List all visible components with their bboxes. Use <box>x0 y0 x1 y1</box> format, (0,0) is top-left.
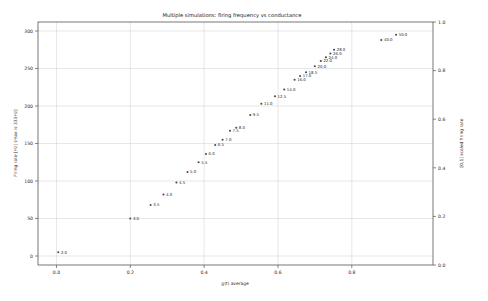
point-label: 28.0 <box>337 47 346 52</box>
point-marker <box>222 139 224 141</box>
point-marker <box>229 130 231 132</box>
y-tick-label: 50 <box>27 216 33 221</box>
y-tick-right-label: 0.0 <box>438 263 445 268</box>
point-label: 18.5 <box>309 70 318 75</box>
point-marker <box>150 204 152 206</box>
point-marker <box>274 95 276 97</box>
y-tick-label: 100 <box>24 179 33 184</box>
y-tick-label: 200 <box>24 104 33 109</box>
point-label: 9.5 <box>253 112 260 117</box>
point-marker <box>305 71 307 73</box>
point-label: 3.0 <box>133 216 140 221</box>
point-label: 5.5 <box>201 160 208 165</box>
point-marker <box>329 52 331 54</box>
point-label: 4.5 <box>179 180 186 185</box>
y-tick-right-label: 0.6 <box>438 117 445 122</box>
point-marker <box>395 34 397 36</box>
point-label: 3.5 <box>153 202 160 207</box>
y-tick-right-label: 1.0 <box>438 20 445 25</box>
point-marker <box>214 144 216 146</box>
y-tick-label: 0 <box>30 254 33 259</box>
point-marker <box>333 49 335 51</box>
y-tick-right-label: 0.4 <box>438 166 445 171</box>
point-marker <box>299 75 301 77</box>
x-tick-label: 0.2 <box>127 270 134 275</box>
point-marker <box>162 193 164 195</box>
x-axis-title: g(t) average <box>221 281 249 286</box>
y-tick-label: 300 <box>24 29 33 34</box>
point-label: 6.0 <box>209 151 216 156</box>
point-marker <box>235 127 237 129</box>
point-label: 40.0 <box>384 37 393 42</box>
x-tick-label: 0.6 <box>274 270 281 275</box>
point-label: 5.0 <box>190 169 197 174</box>
point-label: 8.0 <box>239 125 246 130</box>
y-tick-label: 250 <box>24 66 33 71</box>
x-tick-label: 0.4 <box>200 270 207 275</box>
x-tick-label: 0.8 <box>348 270 355 275</box>
point-marker <box>283 88 285 90</box>
point-marker <box>205 153 207 155</box>
point-marker <box>175 181 177 183</box>
point-label: 50.0 <box>399 32 408 37</box>
point-label: 7.0 <box>225 137 232 142</box>
point-marker <box>325 56 327 58</box>
point-label: 14.0 <box>287 87 296 92</box>
x-tick-label: 0.0 <box>53 270 60 275</box>
point-marker <box>380 39 382 41</box>
y-axis-right-title: [0,1] scaled firing rate <box>459 118 464 167</box>
point-marker <box>129 217 131 219</box>
y-tick-label: 150 <box>24 141 33 146</box>
point-marker <box>294 79 296 81</box>
point-label: 11.0 <box>264 101 273 106</box>
figure-canvas: Multiple simulations: firing frequency v… <box>0 0 488 301</box>
point-label: 20.0 <box>317 64 326 69</box>
point-label: 6.5 <box>218 142 225 147</box>
point-label: 12.5 <box>278 94 287 99</box>
point-marker <box>320 60 322 62</box>
chart-title: Multiple simulations: firing frequency v… <box>163 12 302 19</box>
point-marker <box>260 103 262 105</box>
y-tick-right-label: 0.2 <box>438 214 445 219</box>
point-marker <box>249 114 251 116</box>
point-marker <box>314 65 316 67</box>
y-tick-right-label: 0.8 <box>438 68 445 73</box>
point-label: 4.0 <box>166 192 173 197</box>
point-marker <box>57 251 59 253</box>
point-marker <box>186 171 188 173</box>
y-axis-title: Firing rate [Hz] (max is 333Hz) <box>13 109 18 177</box>
point-marker <box>198 161 200 163</box>
point-label: 2.0 <box>61 250 68 255</box>
